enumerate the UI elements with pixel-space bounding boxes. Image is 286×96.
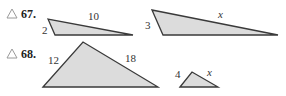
side-label: x: [206, 66, 212, 78]
triangle-67b: [152, 10, 278, 35]
side-label: 4: [175, 68, 181, 80]
side-label: x: [217, 8, 223, 20]
triangle-outline-icon: [7, 9, 17, 18]
side-label: 2: [42, 24, 48, 36]
side-label: 18: [125, 52, 137, 64]
problem-67: 67. 2 10 3 x: [7, 7, 278, 36]
side-label: 3: [145, 19, 151, 31]
triangle-68a: [43, 42, 158, 87]
problem-68: 68. 12 18 4 x: [7, 42, 218, 87]
triangle-outline-icon: [7, 49, 17, 58]
side-label: 10: [88, 10, 100, 22]
side-label: 12: [48, 54, 59, 66]
problem-number: 68.: [21, 47, 36, 61]
similar-triangles-figure: 67. 2 10 3 x 68. 12 18 4 x: [0, 0, 286, 96]
triangle-68b: [180, 72, 218, 87]
problem-number: 67.: [21, 7, 36, 21]
